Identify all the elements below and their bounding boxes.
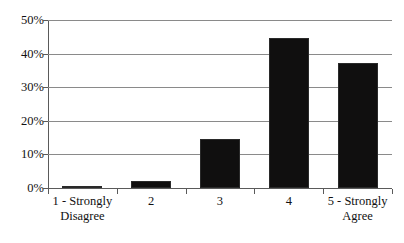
bar-slot <box>186 20 255 188</box>
x-label-line-2: Disagree <box>48 209 117 224</box>
x-label-line-1: 2 <box>117 194 186 209</box>
x-label-category-4: 4 <box>254 194 323 209</box>
x-label-category-5: 5 - Strongly Agree <box>323 194 392 224</box>
y-tick-label: 40% <box>0 47 44 60</box>
y-tick-label: 30% <box>0 81 44 94</box>
bar-slot <box>117 20 186 188</box>
x-axis-labels: 1 - Strongly Disagree 2 3 4 5 - Strongly… <box>48 194 392 240</box>
x-label-line-1: 4 <box>254 194 323 209</box>
x-label-line-2: Agree <box>323 209 392 224</box>
x-label-category-3: 3 <box>186 194 255 209</box>
y-tick-label: 10% <box>0 148 44 161</box>
bar-slot <box>323 20 392 188</box>
x-label-category-2: 2 <box>117 194 186 209</box>
x-label-category-1: 1 - Strongly Disagree <box>48 194 117 224</box>
y-tick-label: 0% <box>0 182 44 195</box>
y-tick-label: 20% <box>0 115 44 128</box>
bar-category-2 <box>131 181 171 188</box>
gridline-baseline <box>48 188 392 189</box>
bar-slot <box>48 20 117 188</box>
bars-layer <box>48 20 392 188</box>
bar-slot <box>254 20 323 188</box>
bar-category-5 <box>338 63 378 188</box>
bar-chart: 50% 40% 30% 20% 10% 0% <box>0 0 404 243</box>
y-axis-labels: 50% 40% 30% 20% 10% 0% <box>0 0 44 243</box>
x-label-line-1: 3 <box>186 194 255 209</box>
x-label-line-1: 5 - Strongly <box>323 194 392 209</box>
bar-category-4 <box>269 38 309 188</box>
y-tick-label: 50% <box>0 14 44 27</box>
bar-category-3 <box>200 139 240 188</box>
x-label-line-1: 1 - Strongly <box>48 194 117 209</box>
bar-category-1 <box>62 186 102 188</box>
x-tick-mark <box>392 189 393 194</box>
